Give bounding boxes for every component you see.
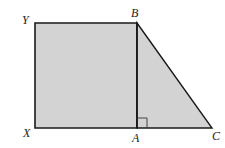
geometry-diagram: Y B X A C <box>0 0 225 148</box>
label-c: C <box>212 129 221 143</box>
square-xyba <box>35 23 137 128</box>
triangle-abc <box>137 23 212 128</box>
label-x: X <box>22 126 31 140</box>
label-a: A <box>131 131 140 145</box>
label-y: Y <box>22 13 30 27</box>
label-b: B <box>131 6 139 20</box>
